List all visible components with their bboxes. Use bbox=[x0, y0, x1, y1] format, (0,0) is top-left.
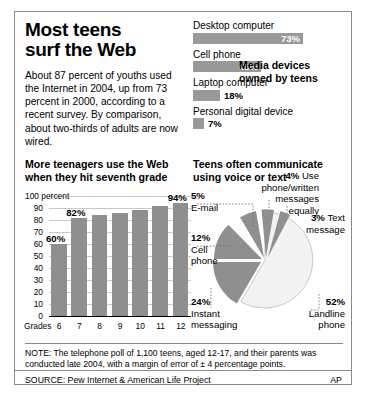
device-label: Personal digital device bbox=[193, 106, 343, 118]
y-tick-label: 20 bbox=[25, 287, 43, 297]
bar bbox=[112, 213, 128, 316]
bar bbox=[92, 215, 108, 316]
pie-label-equally-pct: 4% bbox=[285, 170, 299, 181]
device-label: Desktop computer bbox=[193, 20, 343, 32]
credit-text: AP bbox=[330, 375, 342, 385]
bar bbox=[173, 203, 189, 316]
bar bbox=[71, 218, 87, 316]
grade-chart-title: More teenagers use the Web when they hit… bbox=[25, 158, 195, 183]
y-tick-label: 80 bbox=[25, 215, 43, 225]
x-tick-label: 6 bbox=[49, 321, 69, 331]
pie-label-landline-pct: 52% bbox=[326, 296, 345, 307]
pie-label-email-pct: 5% bbox=[191, 190, 205, 201]
y-tick-label: 40 bbox=[25, 263, 43, 273]
device-row-3: Personal digital device 7% bbox=[193, 106, 343, 131]
device-bar bbox=[193, 90, 220, 101]
bar bbox=[132, 210, 148, 316]
y-tick-label: 10 bbox=[25, 299, 43, 309]
device-bar bbox=[193, 118, 204, 129]
y-tick-label: 90 bbox=[25, 203, 43, 213]
y-tick-label: 70 bbox=[25, 227, 43, 237]
device-value: 18% bbox=[224, 90, 243, 101]
y-tick-label: 50 bbox=[25, 251, 43, 261]
bar bbox=[152, 206, 168, 316]
headline-line-2: surf the Web bbox=[25, 40, 185, 60]
pie-label-cell-phone-pct: 12% bbox=[191, 232, 210, 243]
y-tick-label: 60 bbox=[25, 239, 43, 249]
bar-value-label: 82% bbox=[66, 207, 85, 218]
pie-label-text-message-pct: 3% bbox=[311, 212, 325, 223]
bar-value-label: 94% bbox=[168, 192, 187, 203]
x-tick-label: 11 bbox=[150, 321, 170, 331]
source-text: SOURCE: Pew Internet & American Life Pro… bbox=[25, 375, 211, 385]
x-tick-label: 7 bbox=[69, 321, 89, 331]
x-tick-label: 10 bbox=[130, 321, 150, 331]
bar bbox=[51, 244, 67, 316]
pie-label-cell-phone: 12% Cell phone bbox=[191, 232, 227, 267]
grade-bar-chart: 0102030405060708090100 percent Grades 67… bbox=[25, 188, 191, 334]
media-devices-title: Media devices owned by teens bbox=[239, 59, 345, 84]
pie-label-text-message: 3% Text message bbox=[287, 212, 345, 235]
pie-label-instant-messaging-text: Instant messaging bbox=[191, 308, 243, 331]
pie-label-cell-phone-text: Cell phone bbox=[191, 244, 227, 267]
device-bar: 73% bbox=[193, 33, 303, 44]
infographic-frame: Most teens surf the Web About 87 percent… bbox=[14, 11, 352, 385]
x-tick-label: 8 bbox=[90, 321, 110, 331]
device-row-0: Desktop computer 73% bbox=[193, 20, 343, 45]
communication-pie-chart: 5% E-mail 12% Cell phone 24% Instant mes… bbox=[191, 184, 353, 336]
pie-label-landline: 52% Landline phone bbox=[295, 296, 345, 331]
y-tick-label: 0 bbox=[25, 311, 43, 321]
intro-paragraph: About 87 percent of youths used the Inte… bbox=[25, 69, 188, 148]
x-tick-label: 9 bbox=[110, 321, 130, 331]
pie-label-email-text: E-mail bbox=[191, 202, 218, 213]
x-axis-prefix: Grades bbox=[24, 321, 51, 331]
pie-label-email: 5% E-mail bbox=[191, 190, 218, 213]
x-tick-label: 12 bbox=[171, 321, 191, 331]
y-tick-label: 30 bbox=[25, 275, 43, 285]
source-bar: SOURCE: Pew Internet & American Life Pro… bbox=[15, 370, 351, 387]
note-text: NOTE: The telephone poll of 1,100 teens,… bbox=[25, 343, 343, 370]
x-axis-line bbox=[49, 316, 191, 317]
device-value: 7% bbox=[208, 118, 222, 129]
device-value: 73% bbox=[281, 33, 300, 44]
pie-label-instant-messaging-pct: 24% bbox=[191, 296, 210, 307]
pie-label-landline-text: Landline phone bbox=[309, 308, 345, 331]
bar-value-label: 60% bbox=[46, 233, 65, 244]
pie-label-equally: 4% Use phone/written messages equally bbox=[253, 170, 319, 216]
pie-label-instant-messaging: 24% Instant messaging bbox=[191, 296, 243, 331]
page-title: Most teens surf the Web bbox=[25, 20, 185, 61]
headline-line-1: Most teens bbox=[25, 20, 185, 40]
